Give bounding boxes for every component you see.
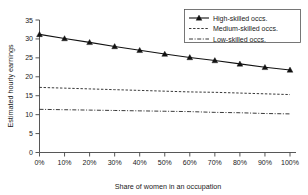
x-tick-label: 100% <box>281 159 299 166</box>
y-tick-label: 25 <box>25 54 33 61</box>
x-tick-label: 90% <box>258 159 272 166</box>
x-tick-label: 70% <box>208 159 222 166</box>
y-axis-ticks: 05101520253035 <box>25 17 39 157</box>
line-chart: 05101520253035 0%10%20%30%40%50%60%70%80… <box>0 0 308 195</box>
x-tick-label: 0% <box>34 159 44 166</box>
chart-container: 05101520253035 0%10%20%30%40%50%60%70%80… <box>0 0 308 195</box>
y-tick-label: 0 <box>29 149 33 156</box>
x-tick-label: 40% <box>133 159 147 166</box>
x-axis-ticks: 0%10%20%30%40%50%60%70%80%90%100% <box>34 153 299 167</box>
x-tick-label: 80% <box>233 159 247 166</box>
x-axis-title: Share of women in an occupation <box>115 182 222 191</box>
y-tick-label: 15 <box>25 92 33 99</box>
y-tick-label: 30 <box>25 35 33 42</box>
x-tick-label: 60% <box>183 159 197 166</box>
x-tick-label: 50% <box>158 159 172 166</box>
y-tick-label: 10 <box>25 111 33 118</box>
legend: High-skilled occs.Medium-skilled occs.Lo… <box>185 10 301 43</box>
y-axis-title: Estimated hourly earnings <box>6 44 15 128</box>
series-layer <box>37 31 293 113</box>
series-line-2 <box>40 109 291 114</box>
legend-label-0: High-skilled occs. <box>213 15 268 23</box>
legend-label-1: Medium-skilled occs. <box>213 25 278 32</box>
y-tick-label: 5 <box>29 130 33 137</box>
x-tick-label: 20% <box>83 159 97 166</box>
y-tick-label: 35 <box>25 17 33 24</box>
x-tick-label: 10% <box>58 159 72 166</box>
y-tick-label: 20 <box>25 73 33 80</box>
x-tick-label: 30% <box>108 159 122 166</box>
series-line-1 <box>40 87 291 94</box>
legend-label-2: Low-skilled occs. <box>213 36 266 43</box>
data-point-marker <box>37 31 43 36</box>
